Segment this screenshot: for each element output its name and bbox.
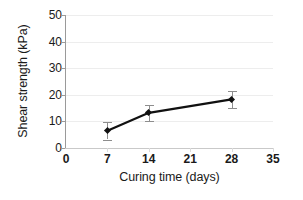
y-tick-label-10: 10 [38, 114, 62, 128]
error-bar-cap-lower-3 [228, 108, 237, 109]
y-tick-label-20: 20 [38, 88, 62, 102]
x-axis-title: Curing time (days) [66, 170, 273, 184]
x-tick-label-0: 0 [51, 152, 81, 166]
x-tick-label-14: 14 [134, 152, 164, 166]
x-tick-label-21: 21 [175, 152, 205, 166]
x-tick-label-28: 28 [217, 152, 247, 166]
x-tick-label-35: 35 [258, 152, 288, 166]
error-bar-cap-lower-1 [103, 140, 112, 141]
x-tick-label-7: 7 [92, 152, 122, 166]
y-tick-label-50: 50 [38, 8, 62, 22]
x-axis-line [65, 148, 273, 149]
error-bar-cap-upper-1 [103, 122, 112, 123]
series-line [66, 15, 273, 148]
error-bar-cap-upper-3 [228, 91, 237, 92]
y-axis-line [65, 15, 66, 149]
error-bar-cap-upper-2 [145, 105, 154, 106]
error-bar-cap-lower-2 [145, 121, 154, 122]
y-axis-title: Shear strength (kPa) [16, 6, 30, 156]
y-axis-tick-labels: 0 10 20 30 40 50 [34, 0, 62, 200]
plot-area [66, 15, 273, 148]
chart-container: Shear strength (kPa) 0 10 20 30 40 50 [0, 0, 303, 200]
y-tick-label-30: 30 [38, 61, 62, 75]
y-tick-label-40: 40 [38, 35, 62, 49]
